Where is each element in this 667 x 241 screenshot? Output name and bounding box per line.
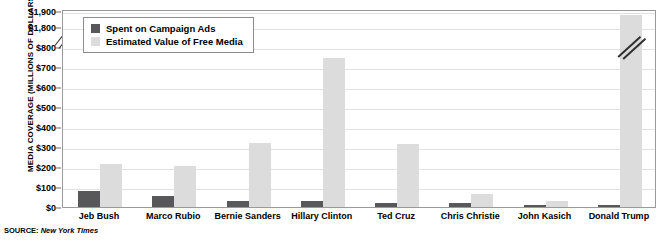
source-prefix: SOURCE: [4,226,39,235]
gridline [63,149,655,150]
y-tick-mark [56,168,61,169]
gridline [63,129,655,130]
bar-estimated-value-of-free-media [620,15,642,207]
bar-estimated-value-of-free-media [249,143,271,207]
bar-estimated-value-of-free-media [471,194,493,207]
y-tick-mark [56,128,61,129]
y-tick-label: $1,900 [0,7,56,17]
bar-group [152,166,196,207]
bar-spent-on-campaign-ads [375,203,397,207]
source-note: SOURCE: New York Times [4,226,98,235]
legend-label-media: Estimated Value of Free Media [106,36,243,47]
gridline [63,89,655,90]
bar-spent-on-campaign-ads [78,191,100,207]
bar-spent-on-campaign-ads [227,201,249,207]
y-tick-mark [56,28,61,29]
legend-label-ads: Spent on Campaign Ads [106,23,215,34]
gridline [63,69,655,70]
bar-group [78,164,122,207]
bar-spent-on-campaign-ads [449,203,471,207]
dark-swatch-icon [91,24,100,33]
bar-spent-on-campaign-ads [301,201,323,207]
y-tick-label: $100 [0,183,56,193]
bar-break-icon [618,37,644,59]
y-tick-label: $200 [0,163,56,173]
bar-estimated-value-of-free-media [100,164,122,207]
bar-group [449,194,493,207]
y-tick-mark [56,88,61,89]
bar-group [301,58,345,207]
y-tick-label: $500 [0,103,56,113]
y-tick-label: $700 [0,63,56,73]
bar-estimated-value-of-free-media [397,144,419,207]
bar-group [524,201,568,207]
gridline [63,109,655,110]
y-tick-mark [56,108,61,109]
legend-item-media: Estimated Value of Free Media [91,35,243,48]
x-tick-label: Donald Trump [564,211,667,221]
legend: Spent on Campaign Ads Estimated Value of… [83,17,254,53]
bar-spent-on-campaign-ads [598,205,620,207]
media-coverage-bar-chart: MEDIA COVERAGE (MILLIONS OF DOLLARS) $0$… [0,0,667,241]
y-tick-mark [56,188,61,189]
y-tick-label: $1,800 [0,23,56,33]
bar-estimated-value-of-free-media [546,201,568,207]
y-tick-label: $800 [0,43,56,53]
bar-estimated-value-of-free-media [323,58,345,207]
bar-spent-on-campaign-ads [152,196,174,207]
gridline [63,13,655,14]
y-tick-mark [56,68,61,69]
y-tick-mark [56,148,61,149]
y-tick-mark [56,208,61,209]
bar-group [598,15,642,207]
source-name: New York Times [41,226,98,235]
y-tick-mark [56,12,61,13]
bar-group [375,144,419,207]
y-tick-label: $600 [0,83,56,93]
legend-item-ads: Spent on Campaign Ads [91,22,243,35]
bar-estimated-value-of-free-media [174,166,196,207]
bar-group [227,143,271,207]
y-tick-label: $300 [0,143,56,153]
bar-spent-on-campaign-ads [524,205,546,207]
y-tick-label: $400 [0,123,56,133]
light-swatch-icon [91,37,100,46]
